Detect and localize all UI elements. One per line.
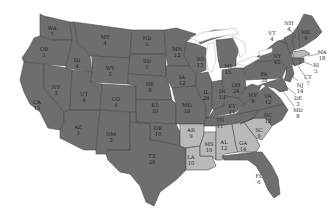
label-fl-votes: 6 bbox=[257, 179, 261, 185]
state-ma[interactable] bbox=[292, 50, 310, 58]
label-ok-votes: 10 bbox=[155, 131, 162, 137]
label-ca-votes: 13 bbox=[34, 105, 41, 111]
label-ny-votes: 45 bbox=[274, 59, 281, 65]
label-mo-votes: 18 bbox=[184, 108, 191, 114]
state-az[interactable] bbox=[60, 110, 100, 150]
label-mi-votes: 15 bbox=[225, 69, 232, 75]
label-ga-votes: 14 bbox=[240, 146, 247, 152]
label-ct-votes: 7 bbox=[306, 80, 309, 86]
label-la-votes: 10 bbox=[188, 160, 195, 166]
label-tx-votes: 20 bbox=[149, 159, 156, 165]
label-il-votes: 29 bbox=[203, 95, 210, 101]
label-wa-votes: 7 bbox=[50, 31, 53, 37]
label-nc-votes: 12 bbox=[265, 118, 272, 124]
label-va-votes: 12 bbox=[265, 99, 272, 105]
label-nv-votes: 3 bbox=[54, 90, 57, 96]
leader-nj bbox=[292, 76, 298, 81]
label-ks-votes: 10 bbox=[152, 108, 159, 114]
leader-ri bbox=[304, 62, 312, 65]
us-electoral-map: WA 7 OR 5 CA 13 ID 4 NV 3 MT 4 WY 3 UT 4… bbox=[0, 0, 336, 219]
label-al-votes: 12 bbox=[221, 145, 228, 151]
label-ia-votes: 12 bbox=[179, 80, 186, 86]
label-wi-votes: 13 bbox=[197, 62, 204, 68]
label-oh-votes: 24 bbox=[233, 88, 240, 94]
label-in-votes: 15 bbox=[219, 94, 226, 100]
label-md-votes: 8 bbox=[296, 113, 300, 119]
state-ct[interactable] bbox=[292, 58, 300, 66]
label-ma-votes: 18 bbox=[319, 55, 326, 61]
leader-de bbox=[286, 86, 296, 95]
label-wy-votes: 3 bbox=[108, 71, 111, 77]
label-or-votes: 5 bbox=[42, 52, 45, 58]
label-az-votes: 3 bbox=[76, 130, 79, 136]
label-ri-votes: 5 bbox=[314, 68, 317, 74]
label-nm-votes: 3 bbox=[109, 137, 112, 143]
label-ky-votes: 11 bbox=[229, 109, 236, 115]
lake-michigan bbox=[206, 42, 216, 72]
label-pa-votes: 38 bbox=[261, 77, 268, 83]
label-mn-votes: 12 bbox=[174, 52, 181, 58]
state-fl[interactable] bbox=[222, 152, 280, 198]
state-ri[interactable] bbox=[300, 58, 304, 64]
label-tn-votes: 11 bbox=[217, 123, 224, 129]
label-nj-votes: 14 bbox=[297, 88, 304, 94]
label-sd-votes: 5 bbox=[145, 64, 148, 70]
label-vt-votes: 4 bbox=[270, 36, 274, 42]
label-ms-votes: 10 bbox=[206, 147, 213, 153]
label-nd-votes: 5 bbox=[145, 41, 148, 47]
